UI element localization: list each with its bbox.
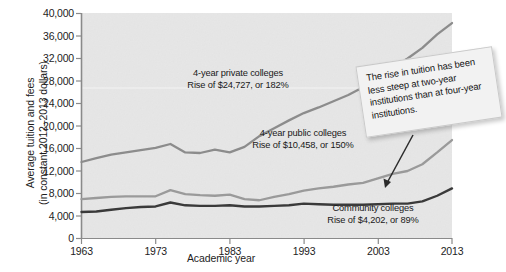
tuition-line-chart: Average tuition and fees (in constant 20…	[0, 0, 506, 272]
annotation-4-year-private-colleges: 4-year private colleges Rise of $24,727,…	[150, 68, 326, 91]
annotation-public-line-2: Rise of $10,458, or 150%	[215, 140, 391, 152]
annotation-community-line-1: Community colleges	[285, 203, 461, 215]
x-axis-title: Academic year	[0, 252, 506, 264]
annotation-private-line-1: 4-year private colleges	[150, 68, 326, 80]
callout-note-text: The rise in tuition has been less steep …	[365, 54, 492, 122]
annotation-community-colleges: Community colleges Rise of $4,202, or 89…	[285, 203, 461, 226]
annotation-private-line-2: Rise of $24,727, or 182%	[150, 80, 326, 92]
x-axis-title-text: Academic year	[187, 252, 255, 264]
annotation-community-line-2: Rise of $4,202, or 89%	[285, 215, 461, 227]
